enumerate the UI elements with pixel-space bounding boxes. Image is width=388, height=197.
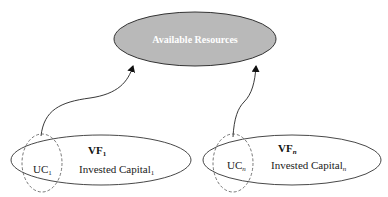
invested-capital-n-label: Invested Capitaln [271, 159, 347, 173]
available-resources-node: Available Resources [114, 12, 276, 66]
invested-capital-1-label: Invested Capital1 [79, 163, 155, 177]
arrow-ucn-to-resources [233, 66, 256, 137]
resources-label: Available Resources [152, 34, 238, 45]
virtual-firm-n: VFn UCn Invested Capitaln [203, 134, 381, 192]
arrow-uc1-to-resources [41, 66, 133, 136]
vf1-label: VF1 [88, 144, 107, 158]
diagram-canvas: Available Resources VF1 UC1 Invested Cap… [0, 0, 388, 197]
vf1-ellipse [11, 135, 191, 185]
uc1-label: UC1 [33, 163, 52, 177]
ucn-label: UCn [227, 159, 246, 173]
virtual-firm-1: VF1 UC1 Invested Capital1 [11, 134, 191, 192]
vfn-label: VFn [278, 142, 297, 156]
